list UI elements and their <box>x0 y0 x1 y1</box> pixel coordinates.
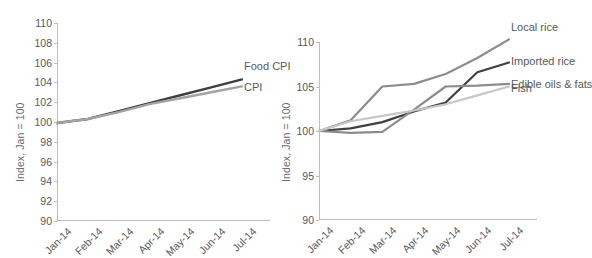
series-line <box>57 79 242 123</box>
x-axis-tick-label: Jan-14 <box>304 224 335 255</box>
y-axis-tick-mark <box>316 131 319 132</box>
x-axis-tick-label: Jan-14 <box>42 225 73 256</box>
y-axis-tick-label: 104 <box>34 76 52 88</box>
series-label: Imported rice <box>511 56 575 67</box>
y-axis-tick-label: 94 <box>40 175 52 187</box>
y-axis-tick-label: 95 <box>302 170 314 182</box>
x-axis-tick-label: Jul-14 <box>497 224 526 253</box>
y-axis-tick-mark <box>316 42 319 43</box>
x-axis-tick-label: Jul-14 <box>230 225 259 254</box>
series-line <box>57 86 242 123</box>
y-axis-tick-mark <box>54 142 57 143</box>
x-axis-tick-label: Feb-14 <box>72 225 104 257</box>
x-axis-tick-label: Feb-14 <box>335 224 367 256</box>
x-axis-tick-label: Mar-14 <box>103 225 135 257</box>
series-lines-left <box>57 23 242 221</box>
y-axis-title-left: Index, Jan = 100 <box>14 102 26 182</box>
y-axis-tick-label: 106 <box>34 57 52 69</box>
y-axis-tick-label: 98 <box>40 136 52 148</box>
y-axis-tick-label: 90 <box>302 214 314 226</box>
y-axis-tick-label: 108 <box>34 37 52 49</box>
y-axis-tick-mark <box>54 43 57 44</box>
y-axis-tick-label: 110 <box>35 17 52 29</box>
series-line <box>319 84 509 133</box>
series-label: CPI <box>244 82 262 93</box>
x-axis-tick-label: Jun-14 <box>196 225 227 256</box>
x-axis-tick-label: Mar-14 <box>367 224 399 256</box>
y-axis-tick-mark <box>316 220 319 221</box>
plot-area-right: 1101051009590Jan-14Feb-14Mar-14Apr-14May… <box>319 42 509 220</box>
series-label: Local rice <box>511 22 558 33</box>
y-axis-tick-mark <box>54 201 57 202</box>
panel-food-item-prices: Index, Jan = 100 1101051009590Jan-14Feb-… <box>268 0 536 252</box>
panel-consumer-price-index: Index, Jan = 100 11010810610410210098969… <box>0 0 268 252</box>
y-axis-tick-label: 92 <box>40 195 52 207</box>
x-axis-tick-label: May-14 <box>429 224 462 257</box>
y-axis-tick-label: 110 <box>297 36 314 48</box>
x-axis-tick-label: Apr-14 <box>135 225 166 256</box>
y-axis-tick-mark <box>54 102 57 103</box>
y-axis-tick-mark <box>54 23 57 24</box>
y-axis-tick-mark <box>316 176 319 177</box>
y-axis-tick-mark <box>54 181 57 182</box>
x-axis-tick-label: May-14 <box>164 225 197 258</box>
y-axis-tick-mark <box>54 82 57 83</box>
y-axis-tick-mark <box>54 221 57 222</box>
plot-area-left: 1101081061041021009896949290Jan-14Feb-14… <box>57 23 242 221</box>
y-axis-tick-label: 90 <box>40 215 52 227</box>
y-axis-tick-label: 102 <box>34 96 52 108</box>
y-axis-tick-mark <box>54 122 57 123</box>
y-axis-tick-mark <box>54 63 57 64</box>
y-axis-title-right: Index, Jan = 100 <box>280 102 292 182</box>
y-axis-tick-mark <box>316 87 319 88</box>
x-axis-tick-label: Apr-14 <box>400 224 431 255</box>
y-axis-tick-label: 100 <box>34 116 52 128</box>
y-axis-tick-label: 105 <box>296 81 314 93</box>
y-axis-tick-label: 100 <box>296 125 314 137</box>
x-axis-tick-label: Jun-14 <box>463 224 494 255</box>
series-label: Fish <box>511 83 532 94</box>
series-lines-right <box>319 42 509 220</box>
y-axis-tick-mark <box>54 162 57 163</box>
y-axis-tick-label: 96 <box>40 156 52 168</box>
